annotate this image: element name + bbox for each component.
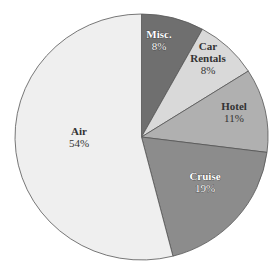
slice-percent: 8%: [201, 64, 216, 76]
pie-chart: Misc.8%CarRentals8%Hotel11%Cruise19%Air5…: [0, 0, 279, 272]
pie-slices: [15, 14, 268, 260]
slice-label: Misc.: [146, 28, 172, 40]
slice-label: Hotel: [221, 100, 247, 112]
slice-label: Rentals: [190, 52, 226, 64]
slice-percent: 8%: [152, 40, 167, 52]
slice-label: Cruise: [189, 170, 220, 182]
slice-percent: 54%: [69, 137, 89, 149]
slice-label: Air: [71, 125, 87, 137]
slice-label: Car: [199, 40, 217, 52]
slice-percent: 11%: [224, 112, 244, 124]
slice-percent: 19%: [195, 182, 215, 194]
